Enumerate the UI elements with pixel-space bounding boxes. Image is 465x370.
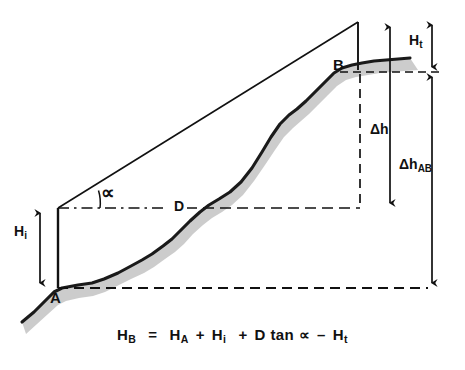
dimension-label-ht-subscript: t <box>419 39 422 50</box>
formula-lhs-symbol: H <box>117 326 128 343</box>
formula-term-3-operator: – <box>317 326 326 343</box>
formula-equals: = <box>148 326 157 343</box>
formula-term-1-subscript: i <box>223 333 226 345</box>
formula-term-1-operator: + <box>196 326 205 343</box>
sight-line-triangle <box>58 22 358 288</box>
terrain-profile <box>22 58 410 322</box>
dimension-label-d: D <box>171 199 187 213</box>
formula-term-0-symbol: H <box>169 326 180 343</box>
formula-term-0-subscript: A <box>181 333 189 345</box>
height-formula: HB=HA+Hi+D tan ∝–Ht <box>0 326 465 345</box>
point-label-a: A <box>50 290 61 305</box>
point-label-b: B <box>333 57 344 72</box>
dimension-label-delta-h-ab-subscript: AB <box>418 163 432 174</box>
formula-term-2-symbol: D tan ∝ <box>255 326 310 343</box>
survey-height-diagram: A B Hi D ∝ Δh ΔhAB Ht HB=HA+Hi+D tan ∝–H… <box>0 0 465 370</box>
formula-lhs-subscript: B <box>128 333 136 345</box>
dimension-label-hi-subscript: i <box>24 230 27 241</box>
diagram-canvas <box>0 0 465 370</box>
dimension-label-hi-symbol: H <box>14 223 24 239</box>
dimension-label-ht-symbol: H <box>409 32 419 48</box>
formula-term-3-symbol: H <box>333 326 344 343</box>
formula-term-1-symbol: H <box>212 326 223 343</box>
formula-term-3-subscript: t <box>344 333 348 345</box>
angle-label-alpha: ∝ <box>101 183 115 202</box>
dimension-label-delta-h: Δh <box>370 122 389 136</box>
dimension-label-delta-h-ab-symbol: Δh <box>399 156 418 172</box>
dimension-label-delta-h-ab: ΔhAB <box>399 157 432 174</box>
formula-term-2-operator: + <box>238 326 247 343</box>
dimension-label-ht: Ht <box>409 33 422 50</box>
terrain-shading <box>22 58 418 334</box>
dimension-label-hi: Hi <box>14 224 27 241</box>
